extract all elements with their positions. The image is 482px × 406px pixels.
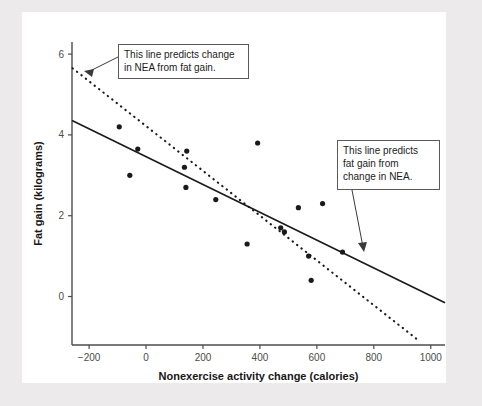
- data-point: [309, 278, 314, 283]
- data-point: [340, 249, 345, 254]
- data-point: [183, 185, 188, 190]
- x-axis-title: Nonexercise activity change (calories): [159, 370, 359, 382]
- leader-line-fat-gain-from-nea: [352, 190, 363, 247]
- data-point: [306, 254, 311, 259]
- x-tick-label: 0: [143, 352, 149, 363]
- data-point: [282, 229, 287, 234]
- leader-arrowhead-nea-from-fat-gain: [84, 69, 94, 77]
- data-point: [117, 124, 122, 129]
- data-points-group: [117, 124, 345, 283]
- data-point: [320, 201, 325, 206]
- x-tick-label: 600: [309, 352, 326, 363]
- y-axis-title: Fat gain (kilograms): [32, 141, 44, 246]
- axis-labels-group: −200020040060080010000246Nonexercise act…: [32, 49, 442, 382]
- regression-lines-group: [73, 68, 445, 342]
- leader-arrowhead-fat-gain-from-nea: [358, 242, 367, 252]
- data-point: [245, 241, 250, 246]
- callout-nea-from-fat-gain: This line predicts change in NEA from fa…: [118, 44, 249, 79]
- data-point: [127, 173, 132, 178]
- data-point: [296, 205, 301, 210]
- figure-container: −200020040060080010000246Nonexercise act…: [0, 0, 482, 406]
- data-point: [184, 148, 189, 153]
- y-tick-label: 2: [58, 210, 64, 221]
- x-tick-label: 400: [252, 352, 269, 363]
- data-point: [182, 165, 187, 170]
- callout-fat-gain-from-nea: This line predicts fat gain from change …: [337, 140, 440, 190]
- x-tick-label: 800: [365, 352, 382, 363]
- y-tick-label: 4: [58, 129, 64, 140]
- x-tick-label: −200: [78, 352, 101, 363]
- y-tick-label: 0: [58, 291, 64, 302]
- data-point: [278, 225, 283, 230]
- data-point: [213, 197, 218, 202]
- callout-leader-lines-group: [84, 57, 367, 252]
- x-tick-label: 200: [195, 352, 212, 363]
- y-tick-label: 6: [58, 49, 64, 60]
- x-tick-label: 1000: [420, 352, 443, 363]
- data-point: [255, 140, 260, 145]
- axes-group: [68, 42, 445, 349]
- data-point: [135, 146, 140, 151]
